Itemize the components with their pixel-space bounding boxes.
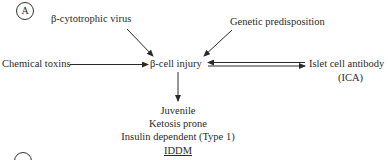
node-chemical: Chemical toxins [2,59,71,70]
outcome-line-ketosis: Ketosis prone [149,119,207,130]
node-ica-line2: (ICA) [338,73,363,84]
arrow-genetic-to-injury [204,30,232,56]
node-ica-line1: Islet cell antibody [309,59,384,70]
node-genetic: Genetic predisposition [230,17,325,28]
outcome-line-juvenile: Juvenile [161,106,196,117]
node-injury: β-cell injury [150,59,202,70]
node-virus: β-cytotrophic virus [51,14,131,25]
arrow-virus-to-injury [127,29,153,56]
outcome-line-insulin: Insulin dependent (Type 1) [121,132,234,143]
outcome-line-iddm: IDDM [164,146,192,157]
panel-label-a-text: A [21,5,28,16]
panel-label-a: A [16,2,34,20]
